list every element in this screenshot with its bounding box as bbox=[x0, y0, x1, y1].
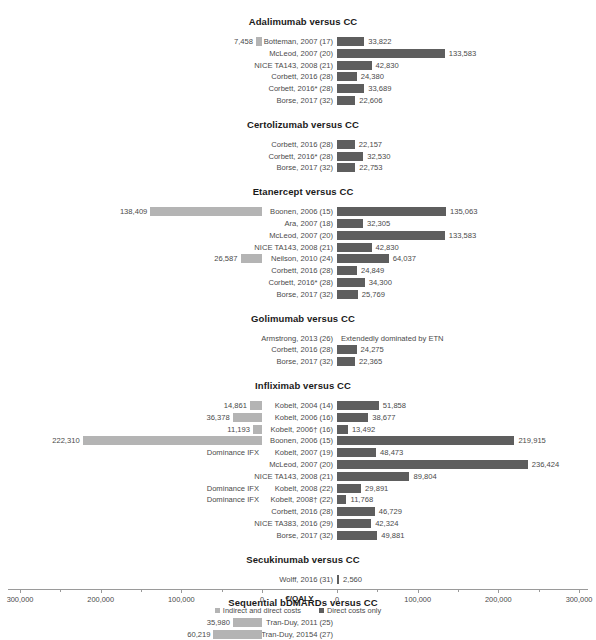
axis-tick-major bbox=[337, 589, 338, 593]
axis-tick-minor bbox=[377, 589, 378, 592]
row-note-left: Dominance IFX bbox=[0, 494, 259, 505]
legend-swatch-icon bbox=[215, 608, 220, 613]
category-label: McLeod, 2007 (20) bbox=[0, 459, 333, 470]
chart-row: Borse, 2017 (32)49,881 bbox=[0, 530, 596, 541]
group-title: Secukinumab versus CC bbox=[0, 554, 596, 565]
category-label: Corbett, 2016 (28) bbox=[0, 506, 333, 517]
bar-value-right: 32,530 bbox=[367, 151, 390, 162]
legend-item[interactable]: Direct costs only bbox=[319, 606, 381, 615]
bar-value-right: 29,891 bbox=[365, 483, 388, 494]
bar-value-left: 222,310 bbox=[0, 435, 80, 446]
category-label: Corbett, 2016* (28) bbox=[0, 277, 333, 288]
group-title-text: Golimumab versus CC bbox=[251, 313, 355, 324]
bar-indirect-and-direct-costs bbox=[83, 436, 262, 445]
bar-indirect-and-direct-costs bbox=[256, 37, 262, 46]
category-label: NICE TA143, 2008 (21) bbox=[0, 60, 333, 71]
axis-tick-label: 100,000 bbox=[151, 595, 211, 604]
chart-row: Borse, 2017 (32)25,769 bbox=[0, 289, 596, 300]
axis-tick-label: 300,000 bbox=[549, 595, 596, 604]
bar-value-right: 49,881 bbox=[381, 530, 404, 541]
chart-row: Boonen, 2006 (15)222,310219,915 bbox=[0, 435, 596, 446]
bar-indirect-and-direct-costs bbox=[233, 413, 262, 422]
axis-tick-minor bbox=[458, 589, 459, 592]
bar-direct-costs-only bbox=[337, 484, 361, 493]
chart-row: Kobelt, 2008 (22)Dominance IFX29,891 bbox=[0, 483, 596, 494]
bar-indirect-and-direct-costs bbox=[250, 401, 262, 410]
chart-legend: Indirect and direct costsDirect costs on… bbox=[0, 606, 596, 615]
bar-value-right: 48,473 bbox=[380, 447, 403, 458]
chart-row: Corbett, 2016 (28)24,275 bbox=[0, 344, 596, 355]
axis-tick-major bbox=[20, 589, 21, 593]
bar-direct-costs-only bbox=[337, 413, 368, 422]
category-label: Corbett, 2016* (28) bbox=[0, 151, 333, 162]
bar-value-right: 51,858 bbox=[383, 400, 406, 411]
bar-direct-costs-only bbox=[337, 84, 364, 93]
bar-direct-costs-only bbox=[337, 49, 445, 58]
bar-value-right: 33,689 bbox=[368, 83, 391, 94]
bar-indirect-and-direct-costs bbox=[150, 207, 262, 216]
bar-indirect-and-direct-costs bbox=[233, 618, 262, 627]
bar-value-right: 236,424 bbox=[532, 459, 559, 470]
legend-item[interactable]: Indirect and direct costs bbox=[215, 606, 301, 615]
bar-direct-costs-only bbox=[337, 345, 357, 354]
chart-row: Borse, 2017 (32)22,753 bbox=[0, 162, 596, 173]
bar-value-right: 42,324 bbox=[375, 518, 398, 529]
bar-value-right: 32,305 bbox=[367, 218, 390, 229]
chart-row: Borse, 2017 (32)22,606 bbox=[0, 95, 596, 106]
bar-value-right: 11,768 bbox=[350, 494, 373, 505]
group-title-text: Secukinumab versus CC bbox=[246, 554, 360, 565]
chart-row: Tran-Duy, 2011 (25)35,980 bbox=[0, 617, 596, 628]
chart-row: Corbett, 2016* (28)34,300 bbox=[0, 277, 596, 288]
category-label: McLeod, 2007 (20) bbox=[0, 230, 333, 241]
chart-row: NICE TA383, 2016 (29)42,324 bbox=[0, 518, 596, 529]
bar-direct-costs-only bbox=[337, 460, 528, 469]
group-title-text: Certolizumab versus CC bbox=[247, 119, 359, 130]
bar-value-right: 64,037 bbox=[393, 253, 416, 264]
category-label: Borse, 2017 (32) bbox=[0, 95, 333, 106]
category-label: NICE TA383, 2016 (29) bbox=[0, 518, 333, 529]
row-note-left: Dominance IFX bbox=[0, 447, 259, 458]
bar-direct-costs-only bbox=[337, 531, 377, 540]
group-title-text: Adalimumab versus CC bbox=[249, 16, 358, 27]
bar-direct-costs-only bbox=[337, 140, 355, 149]
axis-tick-label: 200,000 bbox=[71, 595, 131, 604]
bar-value-right: 22,157 bbox=[359, 139, 382, 150]
chart-row: McLeod, 2007 (20)133,583 bbox=[0, 230, 596, 241]
bar-value-right: 22,606 bbox=[359, 95, 382, 106]
category-label: Borse, 2017 (32) bbox=[0, 289, 333, 300]
bar-direct-costs-only bbox=[337, 152, 363, 161]
legend-swatch-icon bbox=[319, 608, 324, 613]
chart-row: Kobelt, 2004 (14)14,86151,858 bbox=[0, 400, 596, 411]
bar-value-right: 22,753 bbox=[359, 162, 382, 173]
bar-value-left: 7,458 bbox=[0, 36, 253, 47]
chart-row: McLeod, 2007 (20)236,424 bbox=[0, 459, 596, 470]
bar-direct-costs-only bbox=[337, 357, 355, 366]
bar-direct-costs-only bbox=[337, 401, 379, 410]
chart-row: Corbett, 2016* (28)33,689 bbox=[0, 83, 596, 94]
bar-value-left: 11,193 bbox=[0, 424, 250, 435]
category-label: Borse, 2017 (32) bbox=[0, 356, 333, 367]
legend-label: Indirect and direct costs bbox=[223, 606, 301, 615]
chart-row: Kobelt, 2006 (16)36,37838,677 bbox=[0, 412, 596, 423]
bar-direct-costs-only bbox=[337, 163, 355, 172]
category-label: NICE TA143, 2008 (21) bbox=[0, 471, 333, 482]
bar-direct-costs-only bbox=[337, 61, 372, 70]
bar-value-right: 34,300 bbox=[369, 277, 392, 288]
bar-value-left: 26,587 bbox=[0, 253, 238, 264]
group-title: Etanercept versus CC bbox=[0, 186, 596, 197]
category-label: Borse, 2017 (32) bbox=[0, 530, 333, 541]
bar-value-left: 36,378 bbox=[0, 412, 230, 423]
chart-row: Corbett, 2016* (28)32,530 bbox=[0, 151, 596, 162]
bar-value-right: 46,729 bbox=[379, 506, 402, 517]
axis-tick-label: 300,000 bbox=[0, 595, 50, 604]
bar-direct-costs-only bbox=[337, 231, 445, 240]
category-label: Corbett, 2016 (28) bbox=[0, 344, 333, 355]
chart-row: Corbett, 2016 (28)24,380 bbox=[0, 71, 596, 82]
group-title: Certolizumab versus CC bbox=[0, 119, 596, 130]
bar-value-right: 42,830 bbox=[376, 242, 399, 253]
category-label: Corbett, 2016 (28) bbox=[0, 71, 333, 82]
bar-value-right: 22,365 bbox=[359, 356, 382, 367]
bar-value-right: 38,677 bbox=[372, 412, 395, 423]
bar-value-right: 219,915 bbox=[518, 435, 545, 446]
